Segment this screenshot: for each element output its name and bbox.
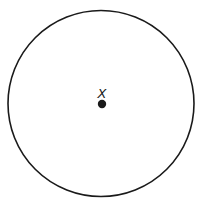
center-label: X	[97, 86, 108, 101]
center-point	[98, 100, 106, 108]
circle-diagram: X	[0, 0, 203, 211]
